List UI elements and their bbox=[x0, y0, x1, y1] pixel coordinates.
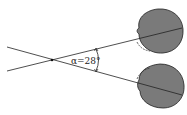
angle-label: α=28° bbox=[71, 56, 101, 66]
upper-eye bbox=[137, 9, 183, 53]
lower-eye bbox=[138, 64, 184, 108]
vergence-diagram: α=28° bbox=[0, 0, 187, 115]
fixation-point bbox=[51, 59, 54, 62]
